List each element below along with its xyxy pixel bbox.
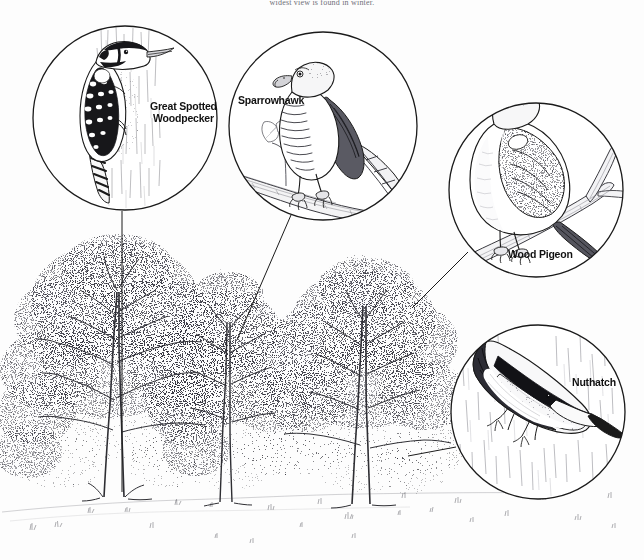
ground-litter	[20, 495, 630, 541]
label-great-spotted-woodpecker: Great Spotted Woodpecker	[150, 100, 217, 124]
right-tree-canopy	[260, 254, 472, 494]
right-oak-tree	[260, 254, 472, 508]
label-nuthatch: Nuthatch	[572, 376, 616, 388]
callout-sparrowhawk[interactable]	[229, 32, 417, 226]
label-wood-pigeon: Wood Pigeon	[508, 248, 573, 260]
leader-wood-pigeon	[412, 252, 468, 308]
illustration-stage: widest view is found in winter.	[0, 0, 644, 560]
woodland-diagram-svg	[0, 0, 644, 560]
label-sparrowhawk: Sparrowhawk	[238, 94, 304, 106]
callout-nuthatch[interactable]	[451, 320, 626, 499]
